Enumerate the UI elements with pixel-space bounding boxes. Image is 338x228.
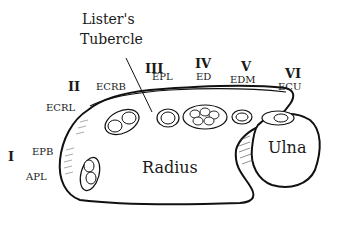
tendon-epb: EPB (32, 147, 53, 157)
tendon-epl: EPL (152, 72, 173, 82)
radius-label: Radius (142, 160, 198, 176)
compartment-V-numeral: V (241, 60, 251, 73)
ulna-label: Ulna (268, 140, 306, 156)
compartment-V-sheath (232, 110, 252, 124)
tendon-edm: EDM (230, 75, 256, 85)
listers-label-line1: Lister's (82, 12, 135, 26)
tendon-ecu: ECU (278, 82, 301, 92)
compartment-VI-sheath (262, 111, 294, 125)
compartment-I-numeral: I (8, 150, 14, 163)
wrist-cross-section-drawing (0, 0, 338, 228)
compartment-VI-numeral: VI (285, 67, 301, 80)
tendon-ecrb: ECRB (96, 82, 126, 92)
tendon-ed: ED (196, 72, 211, 82)
compartment-III-sheath (157, 109, 179, 127)
compartment-IV-numeral: IV (195, 57, 211, 70)
tendon-ecrl: ECRL (46, 103, 75, 113)
compartment-II-numeral: II (68, 80, 80, 93)
compartment-IV-sheath (183, 105, 227, 129)
wrist-extensor-compartments-diagram: Lister's Tubercle I EPB APL II ECRL ECRB… (0, 0, 338, 228)
tendon-apl: APL (26, 172, 47, 182)
listers-label-line2: Tubercle (80, 32, 143, 46)
